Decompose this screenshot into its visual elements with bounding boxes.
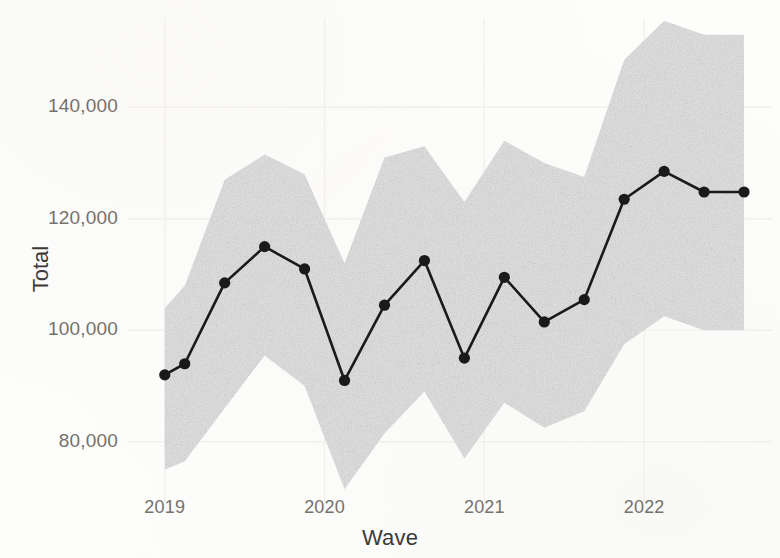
plot-area bbox=[0, 0, 780, 558]
chart-figure: Total Wave 80,000100,000120,000140,000 2… bbox=[0, 0, 780, 558]
confidence-band bbox=[165, 21, 744, 489]
